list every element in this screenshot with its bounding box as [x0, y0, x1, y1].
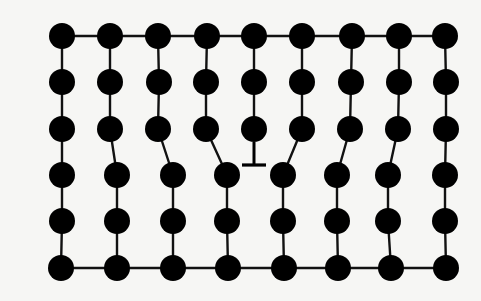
- atom: [193, 69, 219, 95]
- atom: [194, 23, 220, 49]
- atom: [215, 255, 241, 281]
- atom: [433, 255, 459, 281]
- atom: [104, 208, 130, 234]
- atom: [97, 116, 123, 142]
- atom: [289, 23, 315, 49]
- atom: [289, 69, 315, 95]
- atom: [104, 255, 130, 281]
- crystal-lattice: [0, 0, 481, 301]
- atom: [375, 162, 401, 188]
- atom: [97, 69, 123, 95]
- atom: [145, 23, 171, 49]
- dislocation-symbol: [242, 142, 266, 165]
- atom: [432, 208, 458, 234]
- atom: [386, 69, 412, 95]
- atom: [337, 116, 363, 142]
- atom: [375, 208, 401, 234]
- atom: [49, 23, 75, 49]
- atom: [104, 162, 130, 188]
- atom: [160, 255, 186, 281]
- atom: [49, 208, 75, 234]
- atom: [214, 162, 240, 188]
- atom: [49, 162, 75, 188]
- atom: [270, 208, 296, 234]
- atom: [433, 116, 459, 142]
- atom: [385, 116, 411, 142]
- atom: [324, 208, 350, 234]
- atom: [338, 69, 364, 95]
- atom: [271, 255, 297, 281]
- atom: [49, 69, 75, 95]
- atom: [386, 23, 412, 49]
- atom: [270, 162, 296, 188]
- atom: [241, 69, 267, 95]
- atom: [48, 255, 74, 281]
- atom: [241, 116, 267, 142]
- atom: [160, 162, 186, 188]
- edge-dislocation-diagram: [0, 0, 481, 301]
- atom: [433, 69, 459, 95]
- atom: [325, 255, 351, 281]
- atom: [339, 23, 365, 49]
- atom: [97, 23, 123, 49]
- atom: [324, 162, 350, 188]
- atom: [241, 23, 267, 49]
- atom: [193, 116, 219, 142]
- atom: [49, 116, 75, 142]
- atom: [146, 69, 172, 95]
- atom: [432, 23, 458, 49]
- atom: [378, 255, 404, 281]
- atom: [160, 208, 186, 234]
- atom: [145, 116, 171, 142]
- atom: [289, 116, 315, 142]
- atom: [214, 208, 240, 234]
- atom: [432, 162, 458, 188]
